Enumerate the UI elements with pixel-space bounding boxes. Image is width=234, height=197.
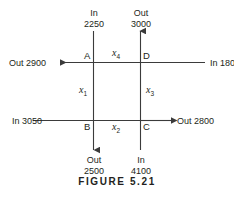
flow-direction-bottom-right: In (116, 155, 166, 166)
flow-label-bottom-right: In 4100 (116, 155, 166, 176)
flow-label-left-upper: Out 2900 (9, 58, 46, 69)
flow-label-top-right: Out 3000 (116, 8, 166, 29)
flow-direction-bottom-left: Out (69, 155, 119, 166)
flow-label-right-lower: Out 2800 (177, 116, 214, 127)
flow-amount-top-left: 2250 (69, 19, 119, 30)
variable-sub-x1: 1 (83, 90, 87, 97)
flow-amount-top-right: 3000 (116, 19, 166, 30)
node-label-d: D (143, 51, 150, 61)
variable-sub-x4: 4 (116, 53, 120, 60)
flow-label-right-upper: In 1800 (210, 58, 234, 69)
variable-label-x2: x2 (112, 122, 120, 136)
node-label-c: C (143, 122, 150, 132)
variable-label-x1: x1 (79, 85, 87, 99)
variable-sub-x2: 2 (116, 127, 120, 134)
node-label-a: A (84, 51, 90, 61)
variable-sub-x3: 3 (150, 90, 154, 97)
variable-label-x4: x4 (112, 48, 120, 62)
flow-direction-top-left: In (69, 8, 119, 19)
figure-caption: FIGURE 5.21 (0, 176, 234, 187)
figure-container: In 2250 Out 3000 Out 2900 In 1800 In 305… (0, 0, 234, 197)
variable-label-x3: x3 (146, 85, 154, 99)
node-label-b: B (84, 122, 90, 132)
flow-amount-bottom-left: 2500 (69, 166, 119, 177)
flow-direction-top-right: Out (116, 8, 166, 19)
flow-label-bottom-left: Out 2500 (69, 155, 119, 176)
flow-label-left-lower: In 3050 (12, 116, 42, 127)
flow-amount-bottom-right: 4100 (116, 166, 166, 177)
flow-label-top-left: In 2250 (69, 8, 119, 29)
